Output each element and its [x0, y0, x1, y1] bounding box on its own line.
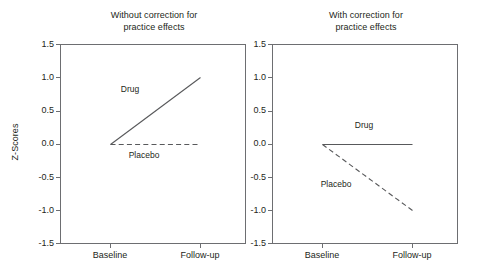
right-panel-plot	[0, 0, 481, 278]
figure-container: Without correction for practice effects …	[0, 0, 481, 278]
right-series-placebo-line	[323, 145, 413, 211]
